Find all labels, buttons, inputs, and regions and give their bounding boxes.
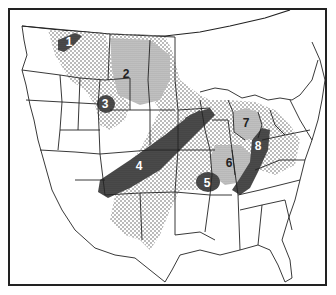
zone-label-8: 8 xyxy=(255,139,262,153)
zone-label-2: 2 xyxy=(123,67,130,81)
zone-label-7: 7 xyxy=(243,116,250,130)
zone-label-3: 3 xyxy=(102,97,109,111)
map-canvas: 1 2 3 4 5 6 7 8 xyxy=(0,0,336,295)
zone-label-4: 4 xyxy=(136,159,143,173)
zone-label-5: 5 xyxy=(204,176,211,190)
zone-label-1: 1 xyxy=(66,35,73,49)
zone-label-6: 6 xyxy=(226,156,233,170)
